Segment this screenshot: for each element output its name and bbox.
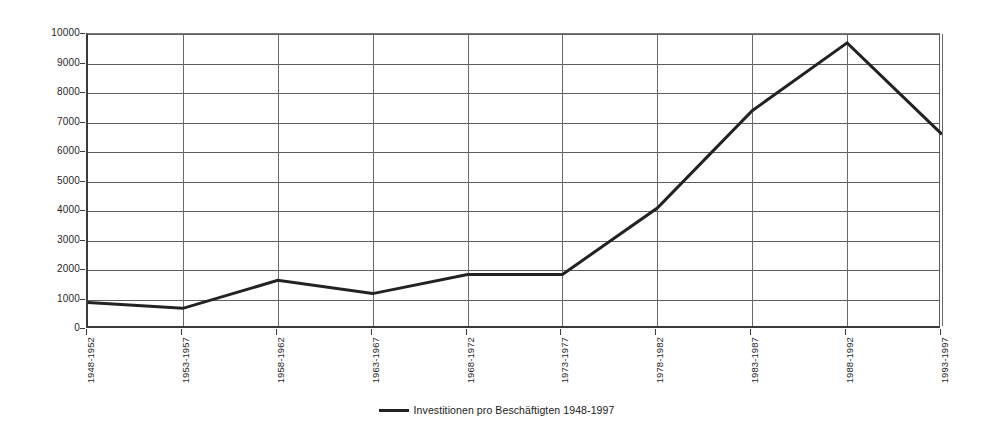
line-series-investitionen bbox=[88, 34, 942, 329]
y-tick-label-9000: 9000 bbox=[20, 58, 80, 68]
x-tick-label-1988-1992: 1988-1992 bbox=[845, 337, 855, 383]
plot-area bbox=[86, 33, 940, 328]
x-tick-mark-1968-1972 bbox=[466, 329, 467, 335]
x-tick-label-1973-1977: 1973-1977 bbox=[560, 337, 570, 383]
y-tick-mark-8000 bbox=[80, 92, 85, 93]
horizontal-gridlines bbox=[88, 34, 939, 326]
gridline-y-6000 bbox=[88, 152, 939, 153]
x-tick-mark-1993-1997 bbox=[940, 329, 941, 335]
vertical-gridlines bbox=[88, 34, 939, 326]
y-tick-label-0: 0 bbox=[20, 323, 80, 333]
gridline-y-7000 bbox=[88, 123, 939, 124]
y-tick-label-10000: 10000 bbox=[20, 28, 80, 38]
gridline-y-5000 bbox=[88, 182, 939, 183]
x-tick-label-1983-1987: 1983-1987 bbox=[750, 337, 760, 383]
x-tick-label-1993-1997: 1993-1997 bbox=[940, 337, 950, 383]
gridline-y-9000 bbox=[88, 64, 939, 65]
x-tick-label-1963-1967: 1963-1967 bbox=[371, 337, 381, 383]
gridline-x-1973-1977 bbox=[562, 34, 563, 326]
gridline-x-1968-1972 bbox=[468, 34, 469, 326]
y-tick-label-6000: 6000 bbox=[20, 146, 80, 156]
y-tick-mark-10000 bbox=[80, 33, 85, 34]
chart-legend: Investitionen pro Beschäftigten 1948-199… bbox=[0, 404, 993, 416]
gridline-y-8000 bbox=[88, 93, 939, 94]
series-layer bbox=[88, 34, 939, 326]
y-tick-label-4000: 4000 bbox=[20, 205, 80, 215]
gridline-x-1988-1992 bbox=[847, 34, 848, 326]
gridline-y-4000 bbox=[88, 211, 939, 212]
gridline-x-1963-1967 bbox=[373, 34, 374, 326]
y-tick-mark-5000 bbox=[80, 181, 85, 182]
y-tick-mark-7000 bbox=[80, 122, 85, 123]
y-tick-mark-2000 bbox=[80, 269, 85, 270]
gridline-y-3000 bbox=[88, 241, 939, 242]
gridline-x-1993-1997 bbox=[942, 34, 943, 326]
gridline-y-2000 bbox=[88, 270, 939, 271]
gridline-x-1978-1982 bbox=[657, 34, 658, 326]
x-tick-mark-1983-1987 bbox=[750, 329, 751, 335]
gridline-y-0 bbox=[88, 329, 939, 330]
x-tick-label-1958-1962: 1958-1962 bbox=[276, 337, 286, 383]
y-tick-mark-6000 bbox=[80, 151, 85, 152]
gridline-x-1983-1987 bbox=[752, 34, 753, 326]
y-tick-label-7000: 7000 bbox=[20, 117, 80, 127]
y-tick-mark-0 bbox=[80, 328, 85, 329]
chart-figure: 0100020003000400050006000700080009000100… bbox=[0, 0, 993, 433]
y-tick-mark-4000 bbox=[80, 210, 85, 211]
x-tick-mark-1973-1977 bbox=[560, 329, 561, 335]
x-tick-mark-1978-1982 bbox=[655, 329, 656, 335]
x-tick-mark-1948-1952 bbox=[86, 329, 87, 335]
x-tick-label-1948-1952: 1948-1952 bbox=[86, 337, 96, 383]
x-tick-label-1978-1982: 1978-1982 bbox=[655, 337, 665, 383]
y-tick-label-5000: 5000 bbox=[20, 176, 80, 186]
y-tick-mark-3000 bbox=[80, 240, 85, 241]
legend-label: Investitionen pro Beschäftigten 1948-199… bbox=[414, 404, 615, 416]
gridline-y-1000 bbox=[88, 300, 939, 301]
x-tick-mark-1958-1962 bbox=[276, 329, 277, 335]
y-tick-mark-9000 bbox=[80, 63, 85, 64]
x-tick-mark-1963-1967 bbox=[371, 329, 372, 335]
x-tick-mark-1953-1957 bbox=[181, 329, 182, 335]
gridline-x-1953-1957 bbox=[183, 34, 184, 326]
x-tick-label-1953-1957: 1953-1957 bbox=[181, 337, 191, 383]
y-tick-label-2000: 2000 bbox=[20, 264, 80, 274]
gridline-x-1958-1962 bbox=[278, 34, 279, 326]
y-tick-mark-1000 bbox=[80, 299, 85, 300]
gridline-y-10000 bbox=[88, 34, 939, 35]
y-tick-label-1000: 1000 bbox=[20, 294, 80, 304]
legend-line-swatch bbox=[379, 409, 409, 412]
x-tick-mark-1988-1992 bbox=[845, 329, 846, 335]
y-tick-label-8000: 8000 bbox=[20, 87, 80, 97]
x-tick-label-1968-1972: 1968-1972 bbox=[466, 337, 476, 383]
y-tick-label-3000: 3000 bbox=[20, 235, 80, 245]
